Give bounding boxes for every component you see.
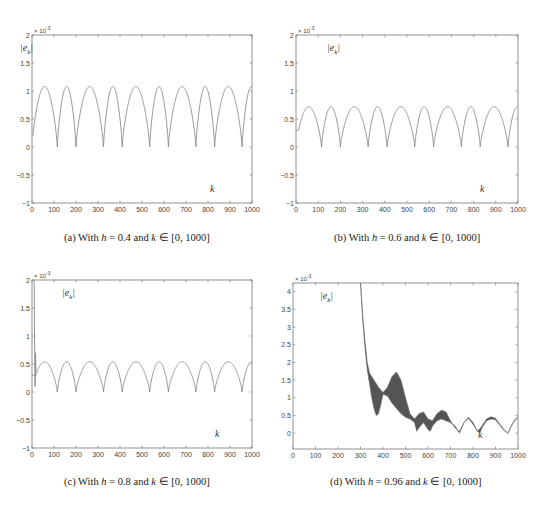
x-tick-label: 600	[422, 452, 434, 459]
y-tick-label: 1.5	[281, 377, 291, 384]
x-tick-label: 300	[355, 452, 367, 459]
caption-range: [0, 1000]	[443, 476, 482, 487]
caption-and: and	[403, 476, 423, 487]
caption-h-value: 0.96	[384, 476, 402, 487]
error-curve-tail	[496, 418, 519, 434]
y-axis-label-bar: |	[330, 290, 333, 301]
y-scale-exponent: -3	[307, 273, 312, 279]
caption-in: ∈	[428, 476, 443, 487]
caption-eq: =	[373, 476, 384, 487]
y-tick-label: 0	[287, 430, 291, 437]
y-tick-label: 3	[287, 324, 291, 331]
x-tick-label: 1000	[510, 452, 526, 459]
panel-d: 0100200300400500600700800900100000.511.5…	[0, 0, 547, 511]
x-tick-label: 400	[377, 452, 389, 459]
x-tick-label: 100	[310, 452, 322, 459]
x-tick-label: 500	[400, 452, 412, 459]
caption-prefix: (d) With	[330, 476, 368, 487]
y-axis-label: |ek|	[320, 290, 333, 304]
y-tick-label: 4	[287, 288, 291, 295]
y-scale-label: × 10-3	[295, 273, 312, 282]
y-tick-label: 2.5	[281, 341, 291, 348]
x-tick-label: 900	[490, 452, 502, 459]
caption-d: (d) With h = 0.96 and k ∈ [0, 1000]	[330, 475, 482, 487]
plot-d: 0100200300400500600700800900100000.511.5…	[0, 0, 547, 511]
x-tick-label: 200	[332, 452, 344, 459]
x-tick-label: 800	[467, 452, 479, 459]
y-tick-label: 2	[287, 359, 291, 366]
error-band	[361, 283, 519, 433]
y-tick-label: 1	[287, 394, 291, 401]
y-tick-label: 3.5	[281, 306, 291, 313]
x-tick-label: 700	[445, 452, 457, 459]
x-tick-label: 0	[291, 452, 295, 459]
y-tick-label: 0.5	[281, 412, 291, 419]
